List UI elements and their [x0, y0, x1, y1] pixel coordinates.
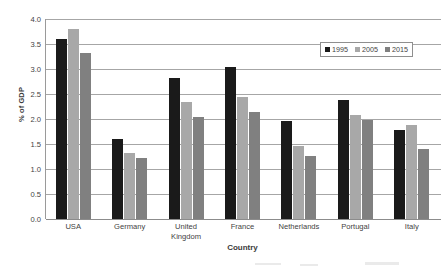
legend-item: 1995	[325, 45, 348, 54]
y-tick-label: 1.5	[7, 140, 41, 149]
y-tick-label: 3.5	[7, 40, 41, 49]
legend-swatch-icon	[355, 47, 360, 52]
gridline	[46, 144, 441, 145]
y-tick-label: 3.0	[7, 65, 41, 74]
scan-artifact	[255, 263, 281, 265]
legend-swatch-icon	[325, 47, 330, 52]
y-tick-label: 2.0	[7, 115, 41, 124]
legend-label: 2005	[362, 45, 378, 54]
x-tick-label: Italy	[384, 222, 440, 232]
y-tick-label: 4.0	[7, 15, 41, 24]
y-tick-label: 0.0	[7, 215, 41, 224]
chart-legend: 199520052015	[320, 42, 413, 57]
x-tick-label: France	[214, 222, 270, 232]
gridline	[46, 94, 441, 95]
x-tick-label: Portugal	[327, 222, 383, 232]
gridline	[46, 169, 441, 170]
y-tick-label: 2.5	[7, 90, 41, 99]
legend-label: 1995	[332, 45, 348, 54]
y-tick-label: 0.5	[7, 190, 41, 199]
scan-artifact	[365, 262, 399, 265]
bar-chart: % of GDP 0.00.51.01.52.02.53.03.54.0 USA…	[0, 0, 445, 271]
scan-artifact	[300, 264, 318, 266]
gridline	[46, 119, 441, 120]
y-axis-tick-labels: 0.00.51.01.52.02.53.03.54.0	[0, 19, 41, 219]
legend-swatch-icon	[385, 47, 390, 52]
x-tick-label: Netherlands	[271, 222, 327, 232]
legend-item: 2005	[355, 45, 378, 54]
x-tick-label: UnitedKingdom	[158, 222, 214, 242]
legend-item: 2015	[385, 45, 408, 54]
y-tick-label: 1.0	[7, 165, 41, 174]
x-axis-title: Country	[45, 243, 440, 252]
gridline	[46, 19, 441, 20]
x-tick-label: Germany	[101, 222, 157, 232]
legend-label: 2015	[392, 45, 408, 54]
x-tick-label: USA	[45, 222, 101, 232]
gridline	[46, 69, 441, 70]
gridline	[46, 219, 441, 220]
gridline	[46, 194, 441, 195]
